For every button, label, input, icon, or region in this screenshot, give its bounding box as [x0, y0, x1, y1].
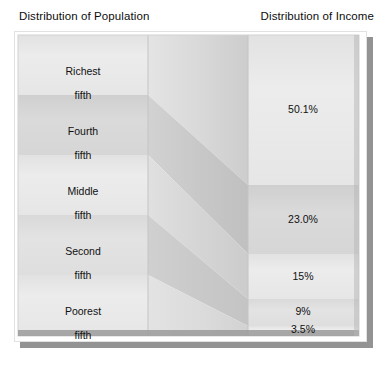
population-band-richest [18, 35, 148, 95]
income-band-richest [248, 35, 359, 185]
plate-right-bevel [354, 35, 359, 336]
population-band-poorest [18, 275, 148, 336]
ribbon-group [148, 35, 248, 336]
header-label-population: Distribution of Population [19, 10, 149, 22]
income-band-second [248, 299, 359, 326]
income-column [248, 35, 359, 336]
population-band-second [18, 215, 148, 275]
figure-header: Distribution of Population Distribution … [0, 10, 388, 30]
population-band-middle [18, 155, 148, 215]
header-label-income: Distribution of Income [261, 10, 374, 22]
population-column [18, 35, 148, 336]
income-band-fourth [248, 185, 359, 254]
flow-diagram-svg [14, 31, 367, 342]
population-band-fourth [18, 95, 148, 155]
plate-bottom-bevel [18, 330, 359, 336]
lorenz-flow-figure: Distribution of Population Distribution … [0, 0, 388, 368]
chart-plate: Richest fifth Fourth fifth Middle fifth … [14, 31, 367, 342]
income-band-middle [248, 254, 359, 299]
